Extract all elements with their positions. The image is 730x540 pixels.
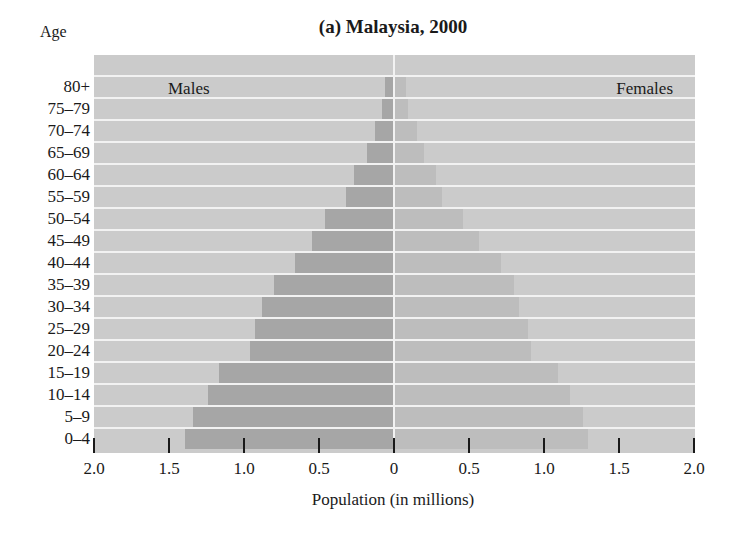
age-group-label: 20–24 (48, 340, 91, 362)
x-tick-label: 2.0 (64, 459, 124, 479)
male-bar (208, 385, 393, 405)
x-tick (93, 438, 95, 453)
female-bar (394, 341, 531, 361)
male-bar (312, 231, 393, 251)
female-bar (394, 187, 442, 207)
age-group-label: 15–19 (48, 362, 91, 384)
age-group-label: 40–44 (48, 252, 91, 274)
male-bar (346, 187, 393, 207)
age-group-label: 5–9 (65, 406, 91, 428)
age-group-label: 75–79 (48, 98, 91, 120)
male-bar (325, 209, 393, 229)
zero-line (393, 55, 395, 453)
age-group-label: 0–4 (65, 428, 91, 450)
age-group-label: 50–54 (48, 208, 91, 230)
male-bar (185, 429, 393, 449)
x-tick-label: 1.5 (139, 459, 199, 479)
female-bar (394, 253, 501, 273)
age-group-label: 70–74 (48, 120, 91, 142)
female-bar (394, 231, 479, 251)
male-bar (375, 121, 393, 141)
female-bar (394, 143, 424, 163)
x-tick-label: 1.5 (589, 459, 649, 479)
age-group-label: 10–14 (48, 384, 91, 406)
x-tick-label: 0 (364, 459, 424, 479)
x-axis-title: Population (in millions) (0, 490, 730, 510)
female-bar (394, 407, 583, 427)
age-group-label: 65–69 (48, 142, 91, 164)
pyramid-plot-area: Males Females (94, 55, 695, 453)
female-bar (394, 121, 417, 141)
male-bar (193, 407, 393, 427)
male-bar (262, 297, 393, 317)
female-bar (394, 275, 514, 295)
x-tick (168, 438, 170, 453)
male-bar (354, 165, 393, 185)
x-tick-label: 1.0 (214, 459, 274, 479)
age-group-label: 60–64 (48, 164, 91, 186)
female-bar (394, 165, 436, 185)
x-tick-label: 0.5 (439, 459, 499, 479)
x-tick (693, 438, 695, 453)
female-bar (394, 297, 519, 317)
female-bar (394, 429, 588, 449)
age-group-label: 35–39 (48, 274, 91, 296)
female-bar (394, 319, 528, 339)
x-tick (393, 438, 395, 453)
male-bar (295, 253, 393, 273)
male-bar (250, 341, 393, 361)
age-group-label: 30–34 (48, 296, 91, 318)
x-tick (468, 438, 470, 453)
x-tick-label: 0.5 (289, 459, 349, 479)
male-bar (274, 275, 393, 295)
male-bar (219, 363, 393, 383)
male-bar (367, 143, 393, 163)
age-group-label: 80+ (63, 76, 90, 98)
x-tick (543, 438, 545, 453)
female-bar (394, 209, 463, 229)
chart-title: (a) Malaysia, 2000 (0, 16, 730, 38)
x-tick-label: 2.0 (664, 459, 724, 479)
male-bar (382, 99, 393, 119)
x-tick (618, 438, 620, 453)
x-tick (318, 438, 320, 453)
male-bar (255, 319, 393, 339)
age-group-label: 25–29 (48, 318, 91, 340)
male-bar (385, 77, 393, 97)
y-axis-title: Age (40, 23, 67, 41)
female-bar (394, 363, 558, 383)
female-bar (394, 385, 570, 405)
female-bar (394, 99, 408, 119)
age-group-label: 55–59 (48, 186, 91, 208)
x-tick-label: 1.0 (514, 459, 574, 479)
age-group-label: 45–49 (48, 230, 91, 252)
x-tick (243, 438, 245, 453)
female-bar (394, 77, 406, 97)
